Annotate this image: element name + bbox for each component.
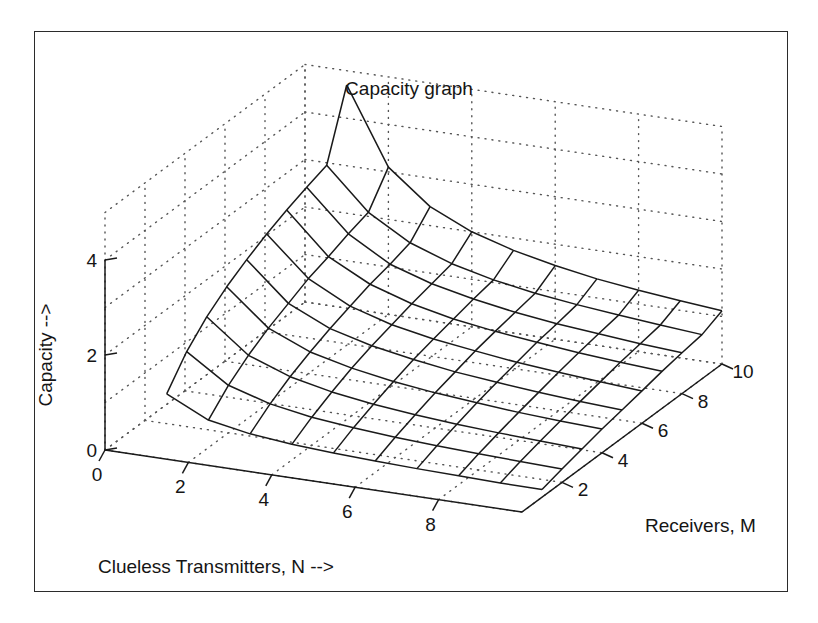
z-axis-label: Capacity --> [35,304,56,407]
x-axis-label: Clueless Transmitters, N --> [98,556,334,577]
x-tick-2: 2 [175,476,186,497]
y-tick-8: 8 [698,391,709,412]
y-tick-6: 6 [658,420,669,441]
z-tick-0: 0 [86,440,97,461]
chart-svg: 02468246810024 Capacity graph Clueless T… [0,0,818,623]
x-tick-0: 0 [92,464,103,485]
chart-title: Capacity graph [345,78,473,99]
y-tick-2: 2 [578,479,589,500]
axis-tick-labels: 02468246810024 [86,250,753,535]
x-tick-4: 4 [259,489,270,510]
z-tick-2: 2 [86,345,97,366]
axis-frame [105,260,722,512]
y-tick-4: 4 [618,450,629,471]
x-tick-6: 6 [342,501,353,522]
y-axis-label: Receivers, M [645,515,756,536]
axis-tick-marks [99,258,733,511]
z-tick-4: 4 [86,250,97,271]
figure-canvas: 02468246810024 Capacity graph Clueless T… [0,0,818,623]
x-tick-8: 8 [425,514,436,535]
y-tick-10: 10 [732,361,753,382]
